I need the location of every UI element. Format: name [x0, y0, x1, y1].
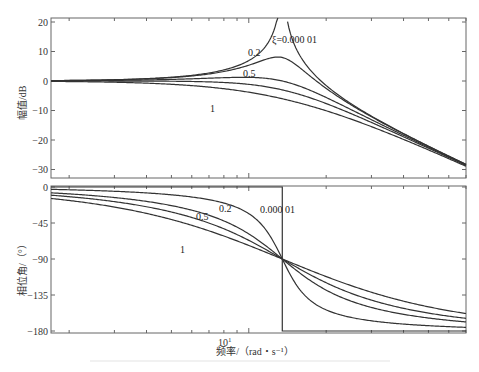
bode-chart: 20100−10−20−30 幅值/dB ξ=0.000 01 0.2 0.5 …: [0, 0, 479, 372]
annotation-phase-damping-0.2: 0.2: [219, 203, 232, 214]
y-tick-label: −45: [32, 218, 48, 229]
y-tick-label: −30: [32, 164, 48, 175]
y-tick-label: −20: [32, 135, 48, 146]
annotation-damping-0.00001: ξ=0.000 01: [272, 34, 317, 46]
magnitude-curve-damping-0.5: [51, 77, 466, 165]
magnitude-curve-damping-0.2: [51, 57, 466, 164]
y-tick-label: −180: [27, 326, 48, 337]
y-tick-label: −90: [32, 254, 48, 265]
y-tick-label: −135: [27, 290, 48, 301]
annotation-phase-damping-1: 1: [180, 244, 185, 255]
y-tick-label: 20: [38, 17, 48, 28]
x-axis-label: 频率/（rad・s⁻¹）: [216, 345, 294, 357]
phase-curves: [51, 187, 466, 331]
phase-y-axis-label: 相位角/（°）: [16, 239, 28, 296]
magnitude-plot: 20100−10−20−30 幅值/dB ξ=0.000 01 0.2 0.5 …: [16, 17, 466, 179]
figure-caption-faded: [90, 360, 390, 362]
magnitude-plot-frame: [51, 18, 466, 178]
y-tick-label: −10: [32, 105, 48, 116]
annotation-phase-damping-0.00001: 0.000 01: [260, 204, 295, 215]
phase-curve-damping-0.2: [51, 189, 466, 327]
annotation-damping-0.5: 0.5: [243, 68, 256, 79]
y-tick-label: 0: [43, 76, 48, 87]
phase-plot-frame: [51, 186, 466, 333]
y-tick-label: 10: [38, 46, 48, 57]
magnitude-curves: [51, 18, 466, 166]
phase-curve-damping-1: [51, 198, 466, 313]
magnitude-y-axis-label: 幅值/dB: [16, 85, 28, 120]
annotation-damping-0.2: 0.2: [248, 47, 261, 58]
phase-curve-damping-0.707: [51, 195, 466, 318]
phase-curve-damping-0.00001: [51, 187, 466, 331]
phase-curve-damping-0.5: [51, 193, 466, 322]
annotation-damping-1: 1: [210, 103, 215, 114]
annotation-phase-damping-0.5: 0.5: [196, 211, 209, 222]
phase-plot: 0−45−90−135−180 相位角/（°） 0.000 01 0.2 0.5…: [16, 182, 466, 337]
y-tick-label: 0: [43, 182, 48, 193]
magnitude-curve-damping-0.00001: [51, 18, 466, 164]
magnitude-x-ticks: [69, 18, 466, 178]
magnitude-curve-damping-1: [51, 81, 466, 166]
magnitude-y-ticks: 20100−10−20−30: [32, 17, 466, 176]
